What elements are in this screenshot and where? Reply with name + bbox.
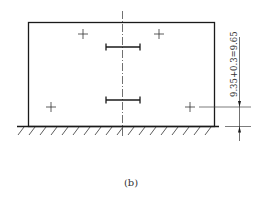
upper-beam-symbol (106, 44, 140, 51)
lower-beam-symbol (106, 97, 140, 104)
dimension-label: 9.35+0.3=9.65 (229, 31, 239, 97)
figure-caption: (b) (0, 177, 262, 188)
cross-marker-bottom-right (185, 102, 195, 112)
diagram-canvas: 9.35+0.3=9.65 (0, 0, 262, 198)
arrowhead-up-icon (238, 101, 241, 107)
cross-marker-bottom-left (46, 102, 56, 112)
cross-marker-top-right (154, 29, 164, 39)
cross-marker-top-left (78, 29, 88, 39)
arrowhead-down-icon (238, 127, 241, 133)
ground-hatching (18, 127, 211, 135)
structure-outline (29, 23, 215, 127)
